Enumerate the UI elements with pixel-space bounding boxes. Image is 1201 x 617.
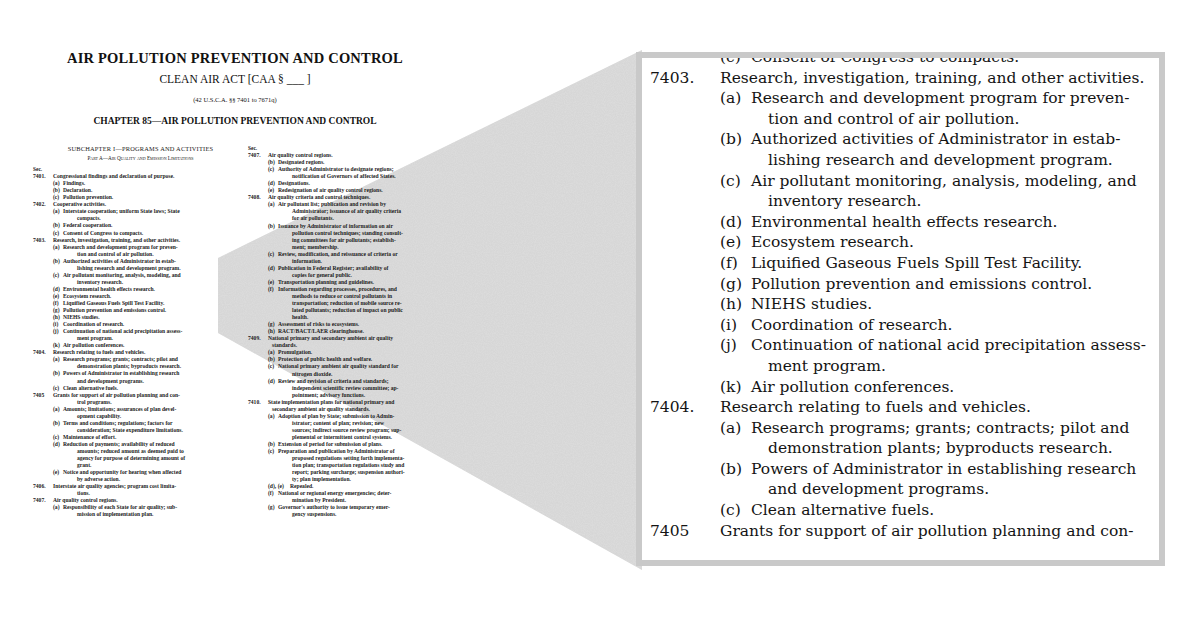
callout-entry: tion and control of air pollution. (642, 109, 1159, 130)
subsection-label: (f) (720, 253, 738, 274)
continuation-text: for air pollutants. (292, 215, 334, 222)
toc-entry: (c)Consent of Congress to compacts. (33, 230, 248, 237)
toc-entry: nitrogen dioxide. (248, 371, 444, 378)
subsection-title: National primary ambient air quality sta… (278, 363, 398, 370)
continuation-text: by adverse action. (77, 476, 120, 483)
toc-entry: (a)Research programs; grants; contracts;… (33, 356, 248, 363)
subsection-label: (d), (e) (268, 483, 284, 490)
toc-entry: (b)Designated regions. (248, 159, 444, 166)
callout-entry: ment program. (642, 356, 1159, 377)
continuation-text: standards. (272, 342, 297, 349)
callout-entry: 7403.Research, investigation, training, … (642, 68, 1159, 89)
subsection-title: Research programs; grants; contracts; pi… (63, 356, 178, 363)
toc-entry: (b)Powers of Administrator in establishi… (33, 370, 248, 377)
callout-entry: (b)Powers of Administrator in establishi… (642, 459, 1159, 480)
subsection-title: Consent of Congress to compacts. (63, 230, 143, 237)
continuation-text: tions. (77, 490, 90, 497)
callout-entry: (k)Air pollution conferences. (642, 377, 1159, 398)
toc-entry: consideration; State expenditure limitat… (33, 427, 248, 434)
continuation-text: trol programs. (77, 399, 112, 406)
subsection-label: (b) (268, 159, 275, 166)
toc-entry: copies for general public. (248, 272, 444, 279)
section-number: 7409. (248, 335, 266, 342)
toc-entry: (e)Notice and opportunity for hearing wh… (33, 469, 248, 476)
subsection-label: (h) (720, 294, 742, 315)
subsection-title: Air pollutant list; publication and revi… (278, 201, 386, 208)
toc-entry: (d)Review and revision of criteria and s… (248, 378, 444, 385)
subsection-title: Assessment of risks to ecosystems. (278, 321, 359, 328)
subsection-label: (b) (268, 441, 275, 448)
toc-entry: (b)Issuance by Administrator of informat… (248, 223, 444, 230)
continuation-text: proposed regulations setting forth imple… (292, 455, 404, 462)
subsection-label: (c) (268, 251, 274, 258)
section-number: 7407. (33, 497, 51, 504)
subsection-title: Continuation of national acid precipitat… (751, 335, 1146, 356)
toc-entry: Administrator; issuance of air quality c… (248, 208, 444, 215)
toc-entry: (c)Pollution prevention. (33, 194, 248, 201)
toc-entry: (a)Promulgation. (248, 349, 444, 356)
continuation-text: information. (292, 258, 322, 265)
callout-entry: (a)Research programs; grants; contracts;… (642, 418, 1159, 439)
toc-entry: (g)Assessment of risks to ecosystems. (248, 321, 444, 328)
continuation-text: opment capability. (77, 413, 121, 420)
section-title: Congressional findings and declaration o… (53, 173, 174, 180)
continuation-text: ing committees for air pollutants; estab… (292, 237, 396, 244)
callout-entry: (b)Authorized activities of Administrato… (642, 129, 1159, 150)
toc-entry: 7407.Air quality control regions. (33, 497, 248, 504)
sec-label: Sec. (33, 166, 248, 173)
toc-entry: (a)Research and development program for … (33, 244, 248, 251)
subsection-label: (a) (53, 356, 60, 363)
continuation-text: lishing research and development program… (768, 150, 1113, 171)
subsection-label: (c) (53, 434, 59, 441)
section-number: 7401. (33, 173, 51, 180)
subsection-title: Authorized activities of Administrator i… (63, 258, 176, 265)
callout-entry: 7404.Research relating to fuels and vehi… (642, 397, 1159, 418)
subsection-label: (k) (53, 342, 60, 349)
toc-entry: (a)Adoption of plan by State; submission… (248, 413, 444, 420)
subsection-title: Research and development program for pre… (751, 88, 1129, 109)
toc-entry: (c)Maintenance of effort. (33, 434, 248, 441)
subsection-title: Responsibility of each State for air qua… (63, 504, 177, 511)
toc-entry: sources; indirect source review program;… (248, 427, 444, 434)
section-title: Grants for support of air pollution plan… (53, 392, 180, 399)
page-subtitle: CLEAN AIR ACT [CAA § ___ ] (0, 73, 470, 85)
subsection-title: Liquified Gaseous Fuels Spill Test Facil… (63, 300, 164, 307)
toc-entry: 7409.National primary and secondary ambi… (248, 335, 444, 342)
subsection-title: Review and revision of criteria and stan… (278, 378, 389, 385)
toc-entry: (c)Authority of Administrator to designa… (248, 166, 444, 173)
subsection-label: (d) (268, 265, 275, 272)
subsection-label: (j) (53, 328, 59, 335)
toc-entry: 7405Grants for support of air pollution … (33, 392, 248, 399)
continuation-text: inventory research. (768, 191, 921, 212)
continuation-text: agency for purpose of determining amount… (77, 455, 185, 462)
section-title: Air quality control regions. (268, 152, 333, 159)
toc-entry: (f)National or regional energy emergenci… (248, 490, 444, 497)
subsection-label: (b) (268, 223, 275, 230)
subsection-title: Coordination of research. (751, 315, 952, 336)
subsection-title: RACT/BACT/LAER clearinghouse. (278, 328, 364, 335)
toc-entry: (b)Authorized activities of Administrato… (33, 258, 248, 265)
toc-entry: (g)Pollution prevention and emissions co… (33, 307, 248, 314)
continuation-text: demonstration plants; byproducts researc… (768, 438, 1113, 459)
toc-entry: tion plan; transportation regulations st… (248, 462, 444, 469)
continuation-text: nitrogen dioxide. (292, 371, 332, 378)
section-title: Research relating to fuels and vehicles. (53, 349, 145, 356)
toc-entry: lated pollutants; reduction of impact on… (248, 307, 444, 314)
continuation-text: tion and control of air pollution. (768, 109, 1019, 130)
section-title: Interstate air quality agencies; program… (53, 483, 176, 490)
toc-column-2: Sec. 7407.Air quality control regions.(b… (248, 145, 444, 518)
subsection-label: (a) (53, 504, 60, 511)
subsection-title: Preparation and publication by Administr… (278, 448, 395, 455)
toc-column-1: SUBCHAPTER I—PROGRAMS AND ACTIVITIES Par… (33, 145, 248, 518)
toc-entry: (d)Reduction of payments; availability o… (33, 441, 248, 448)
toc-entry: 7408.Air quality criteria and control te… (248, 194, 444, 201)
continuation-text: mission of implementation plan. (77, 511, 153, 518)
toc-entry: mission of implementation plan. (33, 511, 248, 518)
subsection-title: Continuation of national acid precipitat… (63, 328, 182, 335)
callout-entry: (i)Coordination of research. (642, 315, 1159, 336)
subsection-label: (b) (720, 129, 742, 150)
document-page: AIR POLLUTION PREVENTION AND CONTROL CLE… (0, 0, 460, 617)
subchapter-heading: SUBCHAPTER I—PROGRAMS AND ACTIVITIES (33, 145, 248, 152)
toc-entry: standards. (248, 342, 444, 349)
chapter-heading: CHAPTER 85—AIR POLLUTION PREVENTION AND … (0, 116, 470, 126)
